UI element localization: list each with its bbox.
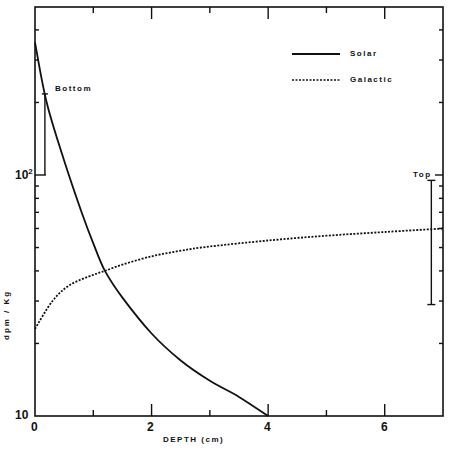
y-tick-exp: 2: [28, 167, 32, 176]
y-tick-base: 10: [15, 168, 28, 182]
legend-galactic-label: Galactic: [350, 75, 393, 84]
bottom-annotation: Bottom: [55, 84, 92, 93]
solar-series-line: [35, 42, 268, 416]
x-axis-label: DEPTH (cm): [163, 435, 224, 444]
x-tick-label: 6: [381, 420, 388, 434]
y-tick-label: 102: [15, 167, 33, 182]
x-tick-label: 4: [264, 420, 271, 434]
x-tick-label: 0: [31, 420, 38, 434]
x-tick-label: 2: [147, 420, 154, 434]
legend-solar-label: Solar: [350, 49, 378, 58]
y-axis-label: dpm / Kg: [2, 290, 11, 340]
galactic-series-line: [35, 229, 443, 329]
plot-frame: [35, 7, 443, 416]
y-tick-label: 10: [15, 408, 28, 422]
error-bars: [35, 94, 435, 305]
chart-plot-area: [0, 0, 454, 452]
top-annotation: Top: [413, 170, 432, 179]
axis-ticks: [35, 7, 443, 416]
